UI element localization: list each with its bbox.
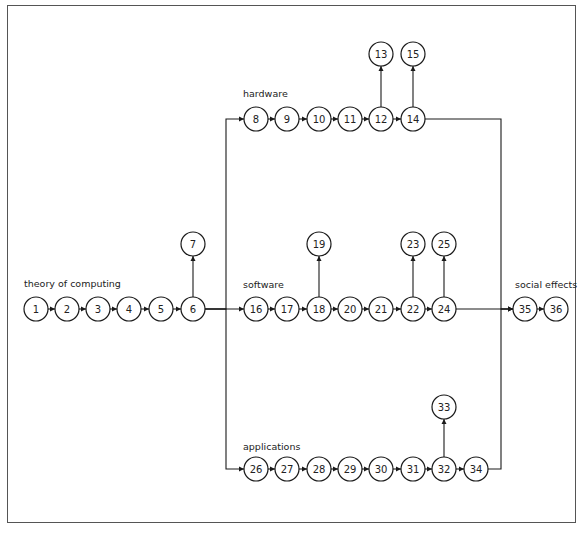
node-label: 32 (438, 464, 451, 475)
node-label: 9 (284, 114, 290, 125)
node-label: 21 (375, 304, 388, 315)
node-11: 11 (338, 107, 362, 131)
node-13: 13 (369, 42, 393, 66)
node-28: 28 (307, 457, 331, 481)
node-15: 15 (401, 42, 425, 66)
node-label: 16 (250, 304, 263, 315)
node-19: 19 (307, 232, 331, 256)
node-label: 17 (281, 304, 294, 315)
node-label: 23 (407, 239, 420, 250)
node-20: 20 (338, 297, 362, 321)
node-label: 36 (550, 304, 563, 315)
node-22: 22 (401, 297, 425, 321)
node-35: 35 (513, 297, 537, 321)
node-25: 25 (432, 232, 456, 256)
node-17: 17 (275, 297, 299, 321)
flow-diagram: 1234567891011121314151617181920212223242… (0, 0, 587, 534)
node-label: 10 (313, 114, 326, 125)
node-1: 1 (24, 297, 48, 321)
node-label: 19 (313, 239, 326, 250)
node-6: 6 (181, 297, 205, 321)
node-label: 33 (438, 402, 451, 413)
group-label-applications: applications (243, 441, 300, 452)
node-30: 30 (369, 457, 393, 481)
node-label: 7 (190, 239, 196, 250)
node-label: 15 (407, 49, 420, 60)
edge-14-35 (425, 119, 513, 309)
group-labels: theory of computinghardwaresoftwareappli… (24, 88, 577, 452)
node-label: 5 (158, 304, 164, 315)
node-label: 20 (344, 304, 357, 315)
node-label: 22 (407, 304, 420, 315)
node-label: 12 (375, 114, 388, 125)
node-31: 31 (401, 457, 425, 481)
node-5: 5 (149, 297, 173, 321)
node-24: 24 (432, 297, 456, 321)
node-label: 1 (33, 304, 39, 315)
group-label-theory: theory of computing (24, 278, 121, 289)
node-29: 29 (338, 457, 362, 481)
node-label: 13 (375, 49, 388, 60)
node-10: 10 (307, 107, 331, 131)
node-7: 7 (181, 232, 205, 256)
node-18: 18 (307, 297, 331, 321)
node-label: 18 (313, 304, 326, 315)
edge-6-8 (205, 119, 244, 309)
node-label: 34 (470, 464, 483, 475)
node-27: 27 (275, 457, 299, 481)
node-label: 29 (344, 464, 357, 475)
node-label: 6 (190, 304, 196, 315)
edge-6-26 (205, 309, 244, 469)
node-label: 8 (253, 114, 259, 125)
node-label: 28 (313, 464, 326, 475)
node-label: 26 (250, 464, 263, 475)
node-label: 3 (95, 304, 101, 315)
node-label: 2 (64, 304, 70, 315)
node-label: 24 (438, 304, 451, 315)
node-34: 34 (464, 457, 488, 481)
node-2: 2 (55, 297, 79, 321)
group-label-social: social effects (515, 279, 577, 290)
node-label: 14 (407, 114, 420, 125)
node-label: 25 (438, 239, 451, 250)
node-label: 27 (281, 464, 294, 475)
node-label: 35 (519, 304, 532, 315)
node-14: 14 (401, 107, 425, 131)
node-9: 9 (275, 107, 299, 131)
group-label-software: software (243, 279, 284, 290)
node-32: 32 (432, 457, 456, 481)
nodes: 1234567891011121314151617181920212223242… (24, 42, 568, 481)
node-12: 12 (369, 107, 393, 131)
node-33: 33 (432, 395, 456, 419)
node-4: 4 (117, 297, 141, 321)
node-label: 4 (126, 304, 132, 315)
node-23: 23 (401, 232, 425, 256)
node-label: 31 (407, 464, 420, 475)
node-label: 11 (344, 114, 357, 125)
node-21: 21 (369, 297, 393, 321)
node-8: 8 (244, 107, 268, 131)
node-36: 36 (544, 297, 568, 321)
node-label: 30 (375, 464, 388, 475)
node-26: 26 (244, 457, 268, 481)
node-3: 3 (86, 297, 110, 321)
node-16: 16 (244, 297, 268, 321)
group-label-hardware: hardware (243, 88, 288, 99)
edge-34-35 (488, 309, 513, 469)
